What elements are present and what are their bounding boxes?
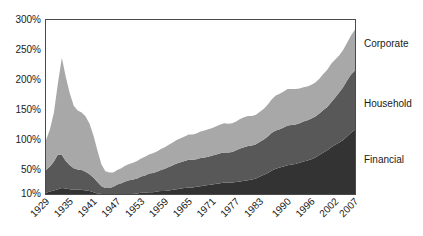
legend-label-household: Household (364, 98, 412, 109)
y-axis-tick-labels: 300%250%200%150%100%50%10% (15, 14, 41, 199)
x-tick-label: 1971 (194, 195, 218, 219)
x-tick-label: 1996 (293, 195, 317, 219)
x-tick-label: 1935 (52, 195, 76, 219)
legend-label-corporate: Corporate (364, 38, 409, 49)
y-tick-label: 250% (15, 44, 41, 55)
y-tick-label: 200% (15, 74, 41, 85)
y-tick-label: 300% (15, 14, 41, 25)
x-tick-label: 1965 (171, 195, 195, 219)
debt-to-gdp-stacked-area-chart: 300%250%200%150%100%50%10% 1929193519411… (0, 0, 423, 236)
y-tick-label: 50% (21, 164, 41, 175)
legend-label-financial: Financial (364, 154, 404, 165)
x-tick-label: 2007 (337, 195, 361, 219)
y-tick-label: 10% (21, 188, 41, 199)
x-tick-label: 2002 (317, 195, 341, 219)
x-tick-label: 1929 (28, 195, 52, 219)
series-legend: CorporateHouseholdFinancial (364, 38, 412, 165)
x-tick-label: 1990 (270, 195, 294, 219)
x-axis-tick-labels: 1929193519411947195319591965197119771983… (28, 195, 361, 219)
x-tick-label: 1947 (99, 195, 123, 219)
x-tick-label: 1977 (218, 195, 242, 219)
stacked-areas-group (46, 30, 355, 194)
y-tick-label: 100% (15, 134, 41, 145)
x-tick-label: 1953 (123, 195, 147, 219)
x-tick-label: 1959 (147, 195, 171, 219)
chart-canvas: 300%250%200%150%100%50%10% 1929193519411… (0, 0, 423, 236)
y-tick-label: 150% (15, 104, 41, 115)
x-tick-label: 1983 (242, 195, 266, 219)
x-tick-label: 1941 (75, 195, 99, 219)
